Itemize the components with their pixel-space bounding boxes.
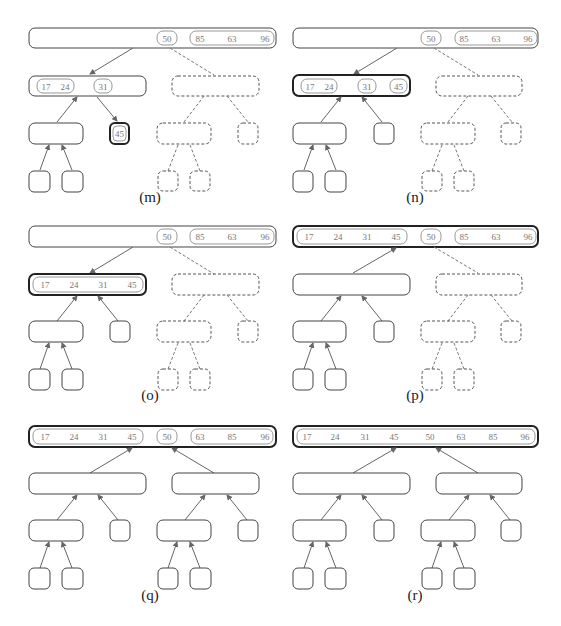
dashed-edge [184, 295, 204, 321]
value: 63 [228, 232, 238, 242]
dashed-node [172, 76, 259, 96]
left-node [29, 473, 146, 494]
dashed-node [436, 76, 522, 96]
arrow-up [40, 343, 49, 369]
arrow-up [321, 495, 341, 520]
value: 50 [163, 232, 173, 242]
run-17-24-31-45 [297, 229, 407, 244]
arrow-up [57, 97, 77, 122]
leaf [158, 568, 178, 589]
leaf [325, 369, 346, 390]
arrow-up-right [353, 448, 396, 473]
arrow-up [98, 296, 118, 321]
arrow-up-right [353, 248, 396, 273]
dashed-edge [227, 96, 248, 122]
arrow-up [362, 296, 382, 321]
dashed-edge [432, 145, 442, 171]
arrow-up [432, 542, 441, 568]
dashed-leaf [454, 171, 474, 191]
value: 24 [70, 280, 80, 290]
node [29, 123, 83, 144]
dashed-edge [227, 295, 248, 321]
value: 63 [228, 34, 238, 44]
panel-caption: (q) [130, 587, 170, 604]
leaf [62, 369, 83, 390]
leaf [293, 171, 313, 192]
node [293, 520, 346, 541]
leaf [29, 171, 50, 192]
arrow-up [304, 145, 313, 170]
panel-caption: (m) [130, 189, 170, 206]
dashed-edge [454, 145, 464, 171]
arrow-up [449, 495, 469, 520]
value: 17 [306, 82, 316, 92]
panel-caption: (p) [395, 387, 435, 404]
leaf [62, 171, 83, 192]
arrow-up [62, 145, 72, 170]
value: 31 [99, 432, 108, 442]
value: 85 [196, 34, 206, 44]
arrow-up [321, 296, 341, 321]
value: 31 [361, 432, 370, 442]
panel-caption: (o) [130, 387, 170, 404]
right-node [436, 473, 522, 494]
leaf [293, 369, 313, 390]
arrow-up [62, 343, 72, 369]
value: 85 [228, 432, 238, 442]
panel-r: 17 24 31 45 50 63 85 96 (r) [280, 415, 560, 623]
value: 45 [390, 432, 400, 442]
dashed-leaf [238, 321, 258, 342]
leaf [29, 369, 50, 390]
leaf [325, 568, 346, 589]
node [29, 520, 83, 541]
arrow-up-left [172, 448, 214, 473]
dashed-edge [190, 145, 200, 171]
dashed-edge [491, 295, 512, 321]
leaf [422, 568, 442, 589]
dashed-node [436, 274, 522, 295]
dashed-edge [491, 96, 512, 122]
value: 45 [128, 432, 138, 442]
value: 85 [489, 432, 499, 442]
value-50: 50 [163, 34, 173, 44]
dashed-leaf [501, 321, 521, 342]
dashed-leaf [454, 369, 474, 390]
value: 50 [426, 432, 436, 442]
value: 96 [524, 232, 534, 242]
value: 45 [394, 82, 404, 92]
node [157, 520, 211, 541]
dashed-node [172, 274, 259, 295]
value: 50 [163, 432, 173, 442]
dashed-edge [448, 96, 468, 122]
leaf [374, 520, 394, 541]
dashed-edge [434, 48, 478, 75]
arrow-up [57, 495, 77, 520]
dashed-edge [170, 48, 214, 75]
panel-o: 50 85 63 96 17 24 31 45 (o) [0, 210, 280, 418]
panel-caption: (r) [395, 587, 435, 604]
value: 45 [115, 129, 125, 139]
value: 24 [325, 82, 335, 92]
dashed-leaf [158, 171, 178, 191]
dashed-edge [168, 145, 178, 171]
dashed-edge [448, 295, 468, 321]
dashed-leaf [422, 171, 442, 191]
leaf [190, 568, 211, 589]
leaf [62, 568, 83, 589]
arrow-up [326, 542, 336, 568]
leaf [501, 520, 521, 541]
panel-n: 50 85 63 96 17 24 31 45 (n) [280, 0, 560, 208]
leaf [325, 171, 346, 192]
value: 17 [41, 280, 51, 290]
arrow-up [362, 495, 382, 520]
panel-p: 17 24 31 45 50 85 63 96 (p) [280, 210, 560, 418]
dashed-leaf [190, 171, 210, 191]
arrow-up-left [436, 448, 478, 473]
arrow-down-left [354, 48, 397, 74]
dashed-edge [170, 247, 214, 274]
run-17-24-31-45 [33, 429, 143, 444]
arrow-up [321, 97, 341, 122]
dashed-leaf [190, 369, 210, 390]
run-17-24-31-45 [33, 277, 143, 292]
leaf [110, 321, 130, 342]
